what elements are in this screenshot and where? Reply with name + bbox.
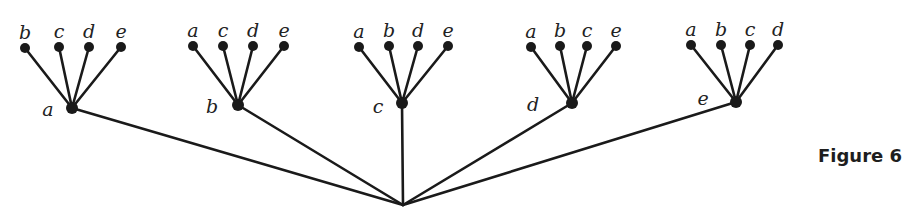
hub-node-a <box>66 102 78 114</box>
leaf-label: a <box>187 19 198 41</box>
hub-label: d <box>527 93 539 115</box>
leaf-node-e-d <box>773 40 783 50</box>
edge-a-root <box>72 108 403 205</box>
edge-d-root <box>403 103 572 205</box>
hub-node-c <box>396 97 408 109</box>
hub-label: c <box>373 95 384 117</box>
leaf-label: c <box>582 19 593 41</box>
hub-label: a <box>42 98 53 120</box>
leaf-node-e-c <box>745 40 755 50</box>
leaf-label: b <box>554 19 566 41</box>
hub-label: b <box>206 95 218 117</box>
leaf-label: b <box>383 19 395 41</box>
leaf-node-e-a <box>686 40 696 50</box>
hub-label: e <box>697 87 708 109</box>
hub-node-b <box>232 99 244 111</box>
leaf-node-b-a <box>188 41 198 51</box>
leaf-label: e <box>610 19 621 41</box>
leaf-node-c-b <box>384 41 394 51</box>
leaf-node-a-e <box>116 42 126 52</box>
edge-e-root <box>403 102 736 205</box>
leaf-label: e <box>278 19 289 41</box>
leaf-node-e-b <box>716 40 726 50</box>
figure-caption: Figure 6 <box>818 145 902 166</box>
leaf-label: e <box>115 20 126 42</box>
edge-b-root <box>238 105 403 205</box>
leaf-label: c <box>54 20 65 42</box>
nodes <box>20 40 783 114</box>
leaf-node-c-a <box>354 42 364 52</box>
leaf-label: b <box>19 21 31 43</box>
leaf-label: a <box>685 18 696 40</box>
leaf-node-a-b <box>20 43 30 53</box>
leaf-label: c <box>745 18 756 40</box>
leaf-label: d <box>412 19 424 41</box>
leaf-node-a-d <box>84 42 94 52</box>
leaf-label: e <box>442 19 453 41</box>
leaf-label: a <box>525 20 536 42</box>
leaf-label: d <box>83 20 95 42</box>
leaf-node-a-c <box>54 42 64 52</box>
leaf-node-d-c <box>582 41 592 51</box>
edges <box>25 45 778 205</box>
leaf-node-c-d <box>413 41 423 51</box>
leaf-node-d-e <box>611 41 621 51</box>
leaf-label: d <box>772 18 784 40</box>
leaf-node-b-e <box>279 41 289 51</box>
edge-c-root <box>402 103 403 205</box>
leaf-label: c <box>218 19 229 41</box>
leaf-node-d-a <box>526 42 536 52</box>
leaf-node-b-c <box>218 41 228 51</box>
leaf-label: d <box>247 19 259 41</box>
leaf-label: b <box>715 18 727 40</box>
hub-node-d <box>566 97 578 109</box>
hub-node-e <box>730 96 742 108</box>
leaf-label: a <box>353 20 364 42</box>
leaf-node-b-d <box>248 41 258 51</box>
leaf-node-d-b <box>555 41 565 51</box>
leaf-node-c-e <box>443 41 453 51</box>
